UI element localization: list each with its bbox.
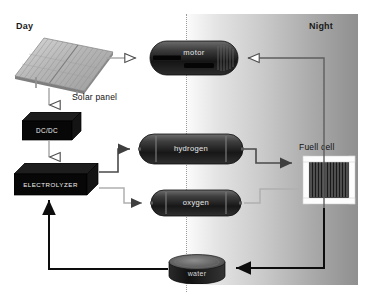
fuel-cell: [299, 152, 359, 208]
oxygen-tank: oxygen: [150, 189, 242, 217]
day-label: Day: [16, 22, 33, 31]
hydrogen-tank: hydrogen: [138, 133, 244, 165]
water-tank-label: water: [168, 270, 226, 277]
dcdc-label: DC/DC: [36, 127, 58, 134]
water-tank-graphic: [168, 254, 226, 284]
water-tank: water: [168, 254, 226, 284]
motor-label: motor: [148, 48, 240, 57]
electrolyzer-label: ELECTROLYZER: [23, 181, 78, 188]
solar-panel-label: Solar panel: [72, 93, 117, 102]
hydrogen-tank-graphic: [138, 133, 244, 165]
fuel-cell-graphic: [299, 152, 359, 208]
solar-panel: [14, 36, 114, 96]
motor: motor: [148, 40, 240, 76]
night-label: Night: [309, 22, 333, 31]
oxygen-tank-graphic: [150, 189, 242, 217]
solar-panel-graphic: [14, 36, 114, 96]
dcdc-converter: DC/DC: [22, 112, 82, 142]
diagram-canvas: Day Night: [0, 0, 376, 302]
motor-graphic: [148, 40, 240, 76]
fuel-cell-label: Fuell cell: [299, 143, 335, 152]
electrolyzer: ELECTROLYZER: [14, 163, 99, 197]
